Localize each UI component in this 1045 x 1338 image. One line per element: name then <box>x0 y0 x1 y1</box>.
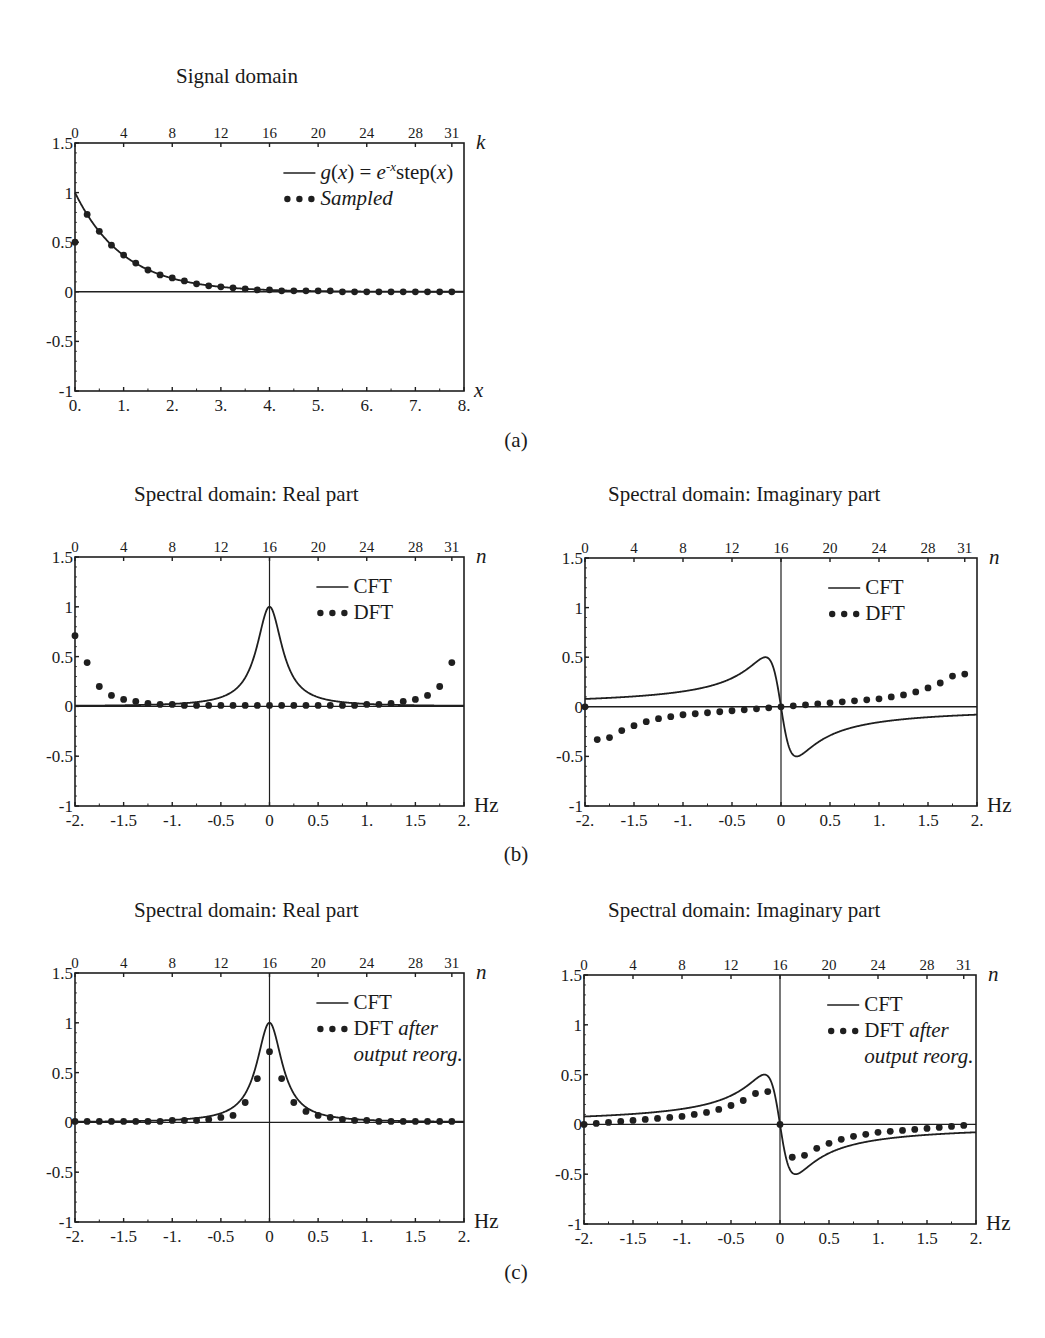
sample-dot <box>84 659 91 666</box>
top-index-tick-label: 20 <box>311 955 326 971</box>
sample-dot <box>778 703 785 710</box>
x-tick-label: 0.5 <box>308 1227 329 1246</box>
x-tick-label: 4. <box>263 396 276 415</box>
sample-dot <box>862 1131 869 1138</box>
legend-line-label: CFT <box>864 992 903 1016</box>
cft-curve <box>75 193 464 292</box>
sample-dot <box>839 698 846 705</box>
sample-dot <box>169 275 176 282</box>
sample-dot <box>680 711 687 718</box>
legend-dot-swatch <box>852 1028 858 1034</box>
y-tick-label: 0 <box>65 283 74 302</box>
legend-dot-swatch <box>329 1026 335 1032</box>
top-index-tick-label: 12 <box>213 955 228 971</box>
sample-dot <box>424 692 431 699</box>
y-tick-label: -0.5 <box>46 332 73 351</box>
sample-dot <box>924 1125 931 1132</box>
sample-dot <box>412 288 419 295</box>
x-tick-label: 0 <box>777 811 786 830</box>
sample-dot <box>703 1109 710 1116</box>
sample-dot <box>193 1117 200 1124</box>
legend: CFTDFT <box>316 574 393 624</box>
sample-dot <box>593 1120 600 1127</box>
y-tick-label: 0.5 <box>52 233 73 252</box>
sample-dot <box>193 280 200 287</box>
sample-dot <box>436 288 443 295</box>
plot-real-c: -2.-1.5-1.-0.500.51.1.52.048121620242831… <box>46 955 498 1246</box>
y-tick-label: 1.5 <box>52 548 73 567</box>
sample-dot <box>315 702 322 709</box>
sample-dot <box>132 698 139 705</box>
x-tick-label: -1. <box>163 811 181 830</box>
sample-dot <box>838 1136 845 1143</box>
sample-dot <box>729 707 736 714</box>
sample-dot <box>912 689 919 696</box>
sample-dot <box>145 700 152 707</box>
legend-dot-swatch <box>317 1026 323 1032</box>
top-index-tick-label: 12 <box>213 125 228 141</box>
y-tick-label: 0.5 <box>562 648 583 667</box>
legend-dot-swatch <box>840 1028 846 1034</box>
legend-dots-label: DFT after <box>864 1018 949 1042</box>
sample-dot <box>145 1118 152 1125</box>
sample-dot <box>145 267 152 274</box>
sample-dot <box>217 1114 224 1121</box>
y-tick-label: -0.5 <box>556 747 583 766</box>
top-index-tick-label: 28 <box>408 955 423 971</box>
sample-dot <box>876 695 883 702</box>
sample-dot <box>84 1118 91 1125</box>
x-tick-label: 1.5 <box>405 811 426 830</box>
sample-dot <box>949 673 956 680</box>
top-index-tick-label: 24 <box>871 957 887 973</box>
y-tick-label: 1 <box>575 599 584 618</box>
top-index-tick-label: 20 <box>311 539 326 555</box>
sample-dot <box>400 1118 407 1125</box>
sample-dot <box>157 1118 164 1125</box>
sample-dot <box>315 1112 322 1119</box>
y-tick-label: -1 <box>59 797 73 816</box>
y-tick-label: 1.5 <box>561 966 582 985</box>
sample-dot <box>108 692 115 699</box>
top-index-tick-label: 31 <box>444 955 459 971</box>
legend: CFTDFT <box>828 575 905 625</box>
sample-dot <box>911 1126 918 1133</box>
sample-dot <box>888 693 895 700</box>
sample-dot <box>802 701 809 708</box>
x-axis-label: Hz <box>987 793 1012 817</box>
top-index-tick-label: 31 <box>957 540 972 556</box>
top-index-tick-label: 31 <box>444 539 459 555</box>
legend-dot-swatch <box>296 196 302 202</box>
top-index-tick-label: 16 <box>262 539 278 555</box>
sample-dot <box>790 702 797 709</box>
x-tick-label: 0 <box>265 811 274 830</box>
sample-dot <box>594 736 601 743</box>
sample-dot <box>789 1154 796 1161</box>
sample-dot <box>181 277 188 284</box>
x-tick-label: -0.5 <box>718 1229 745 1248</box>
sample-dot <box>801 1152 808 1159</box>
sample-dot <box>704 709 711 716</box>
sample-dot <box>230 1112 237 1119</box>
top-index-tick-label: 24 <box>872 540 888 556</box>
y-tick-label: 1.5 <box>52 134 73 153</box>
x-tick-label: 1. <box>360 811 373 830</box>
sample-dot <box>193 702 200 709</box>
sample-dot <box>605 1119 612 1126</box>
top-index-tick-label: 8 <box>679 540 687 556</box>
sample-dot <box>290 1099 297 1106</box>
y-tick-label: 0.5 <box>52 1064 73 1083</box>
sample-dot <box>581 1121 588 1128</box>
sample-dot <box>826 1140 833 1147</box>
y-tick-label: -1 <box>568 1215 582 1234</box>
sample-dot <box>642 1116 649 1123</box>
x-tick-label: 1.5 <box>405 1227 426 1246</box>
x-tick-label: 6. <box>360 396 373 415</box>
y-tick-label: 0.5 <box>52 648 73 667</box>
sample-dot <box>925 685 932 692</box>
top-index-tick-label: 16 <box>774 540 790 556</box>
legend: CFTDFT afteroutput reorg. <box>316 990 462 1066</box>
sample-dot <box>108 1118 115 1125</box>
y-tick-label: -0.5 <box>555 1165 582 1184</box>
top-index-tick-label: 16 <box>773 957 789 973</box>
x-tick-label: -1.5 <box>110 1227 137 1246</box>
